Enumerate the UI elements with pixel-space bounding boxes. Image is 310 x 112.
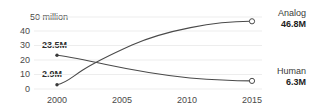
- series-value-analog: 46.8M: [232, 19, 306, 30]
- marker-human-start: [55, 54, 58, 57]
- series-value-human: 6.3M: [232, 77, 306, 88]
- series-name-human: Human: [232, 66, 306, 77]
- series-label-human: Human 6.3M: [232, 66, 306, 88]
- line-chart: 50 million 40 30 20 10 0 2000 2005 2010 …: [0, 0, 310, 112]
- gridlines: [34, 17, 262, 89]
- series-name-analog: Analog: [232, 8, 306, 19]
- marker-analog-start: [55, 83, 58, 86]
- series-label-analog: Analog 46.8M: [232, 8, 306, 30]
